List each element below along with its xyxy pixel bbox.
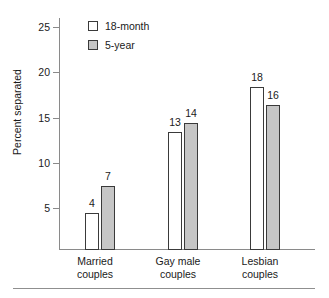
x-axis-label-gay-male-line2: couples bbox=[143, 268, 213, 281]
x-axis-label-married-line1: Married bbox=[60, 255, 130, 268]
bar-lesbian-5-year[interactable] bbox=[266, 105, 280, 250]
legend-item-18-month[interactable]: 18-month bbox=[88, 18, 149, 34]
x-axis-label-gay-male-line1: Gay male bbox=[143, 255, 213, 268]
footer-divider bbox=[13, 288, 315, 289]
bar-chart-figure: Percent separated 25 20 15 10 5 4 7 13 1… bbox=[0, 0, 329, 298]
bar-value-married-18-month: 4 bbox=[82, 198, 102, 209]
bar-gay-male-5-year[interactable] bbox=[184, 123, 198, 250]
y-tick-label-20: 20 bbox=[22, 67, 50, 78]
bar-married-5-year[interactable] bbox=[101, 186, 115, 250]
x-axis-label-gay-male: Gay male couples bbox=[143, 255, 213, 280]
legend-label-5-year: 5-year bbox=[105, 40, 135, 51]
legend-swatch-18-month-icon bbox=[88, 21, 98, 31]
bar-value-married-5-year: 7 bbox=[98, 171, 118, 182]
legend-label-18-month: 18-month bbox=[105, 21, 149, 32]
y-tick-mark-15 bbox=[53, 118, 60, 119]
y-tick-label-5: 5 bbox=[22, 203, 50, 214]
y-tick-mark-10 bbox=[53, 163, 60, 164]
bar-lesbian-18-month[interactable] bbox=[250, 87, 264, 250]
x-axis-label-lesbian-line2: couples bbox=[225, 268, 295, 281]
y-tick-label-10: 10 bbox=[22, 158, 50, 169]
legend-swatch-5-year-icon bbox=[88, 40, 98, 50]
chart-legend: 18-month 5-year bbox=[88, 18, 149, 56]
bar-value-lesbian-5-year: 16 bbox=[261, 90, 285, 101]
y-tick-mark-25 bbox=[53, 27, 60, 28]
bar-married-18-month[interactable] bbox=[85, 213, 99, 250]
y-tick-label-15: 15 bbox=[22, 113, 50, 124]
bar-value-gay-male-5-year: 14 bbox=[179, 108, 203, 119]
legend-item-5-year[interactable]: 5-year bbox=[88, 37, 149, 53]
y-tick-mark-5 bbox=[53, 208, 60, 209]
bar-gay-male-18-month[interactable] bbox=[168, 132, 182, 250]
y-tick-mark-20 bbox=[53, 72, 60, 73]
x-axis-label-married: Married couples bbox=[60, 255, 130, 280]
x-axis-label-married-line2: couples bbox=[60, 268, 130, 281]
x-axis-label-lesbian-line1: Lesbian bbox=[225, 255, 295, 268]
y-tick-label-25: 25 bbox=[22, 22, 50, 33]
bar-value-lesbian-18-month: 18 bbox=[245, 72, 269, 83]
x-axis-label-lesbian: Lesbian couples bbox=[225, 255, 295, 280]
